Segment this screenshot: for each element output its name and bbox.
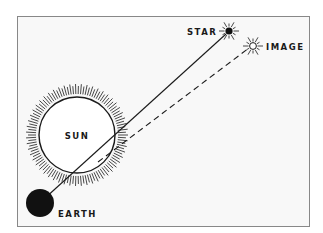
sun-label: SUN [65, 131, 90, 141]
earth-icon [26, 189, 54, 217]
light-deflection-diagram: SUN EARTH STAR IMAGE [0, 0, 323, 233]
star-label: STAR [187, 27, 217, 37]
earth-label: EARTH [58, 209, 97, 219]
image-label: IMAGE [266, 42, 304, 52]
